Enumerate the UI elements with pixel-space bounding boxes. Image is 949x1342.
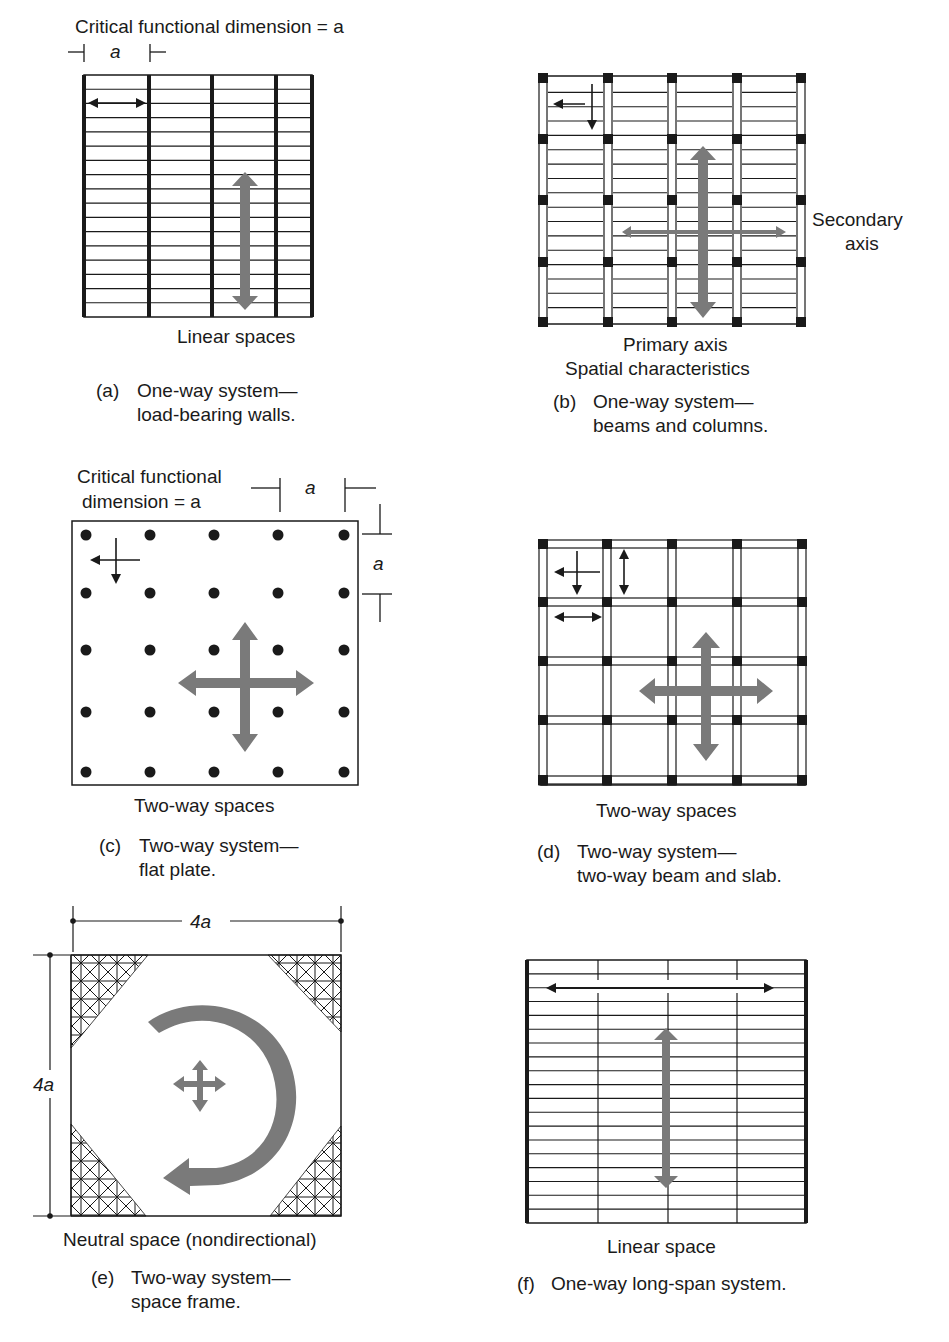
dimension-left-label: 4a xyxy=(33,1074,54,1095)
space-label: Linear spaces xyxy=(177,326,295,347)
dimension-label-h: a xyxy=(305,477,316,498)
column-grid xyxy=(81,530,350,778)
caption-letter: (f) xyxy=(517,1273,535,1294)
space-label: Two-way spaces xyxy=(134,795,274,816)
space-label: Two-way spaces xyxy=(596,800,736,821)
caption-line-2: load-bearing walls. xyxy=(137,404,295,425)
space-label: Linear space xyxy=(607,1236,716,1257)
space-label: Spatial characteristics xyxy=(565,358,750,379)
caption-line-1: Two-way system— xyxy=(139,835,298,856)
panel-a-heading: Critical functional dimension = a xyxy=(75,16,344,37)
caption-letter: (c) xyxy=(99,835,121,856)
caption-letter: (a) xyxy=(96,380,119,401)
structural-systems-figure: Critical functional dimension = a a Line… xyxy=(0,0,949,1342)
secondary-axis-label: Secondary xyxy=(812,209,903,230)
caption-line-2: space frame. xyxy=(131,1291,241,1312)
caption-line-1: One-way system— xyxy=(137,380,297,401)
space-label: Neutral space (nondirectional) xyxy=(63,1229,316,1250)
beam-column-plan xyxy=(538,73,806,327)
dimension-marker xyxy=(251,478,392,622)
dimension-label: a xyxy=(110,41,121,62)
panel-f: Linear space (f) One-way long-span syste… xyxy=(517,960,806,1294)
panel-d: Two-way spaces (d) Two-way system— two-w… xyxy=(537,539,807,886)
panel-e: 4a 4a Neutral space (nondirectional) (e)… xyxy=(33,906,343,1312)
heading-line-2: dimension = a xyxy=(82,491,201,512)
wall-plan xyxy=(84,75,312,317)
four-way-arrow-icon xyxy=(92,538,140,582)
panel-c: Critical functional dimension = a a a Tw… xyxy=(72,466,392,880)
panel-a: Critical functional dimension = a a Line… xyxy=(68,16,344,425)
caption-letter: (b) xyxy=(553,391,576,412)
gray-four-way-arrow-icon xyxy=(178,622,314,752)
caption-letter: (d) xyxy=(537,841,560,862)
secondary-axis-label-2: axis xyxy=(845,233,879,254)
dimension-top-label: 4a xyxy=(190,911,211,932)
beam-slab-plan xyxy=(538,539,807,785)
panel-b: Secondary axis Primary axis Spatial char… xyxy=(538,73,903,436)
caption-letter: (e) xyxy=(91,1267,114,1288)
caption-line-2: flat plate. xyxy=(139,859,216,880)
primary-axis-label: Primary axis xyxy=(623,334,728,355)
caption-line-1: One-way system— xyxy=(593,391,753,412)
dimension-label-v: a xyxy=(373,553,384,574)
caption-line-1: One-way long-span system. xyxy=(551,1273,787,1294)
caption-line-1: Two-way system— xyxy=(577,841,736,862)
heading-line-1: Critical functional xyxy=(77,466,222,487)
caption-line-2: two-way beam and slab. xyxy=(577,865,782,886)
caption-line-1: Two-way system— xyxy=(131,1267,290,1288)
caption-line-2: beams and columns. xyxy=(593,415,768,436)
